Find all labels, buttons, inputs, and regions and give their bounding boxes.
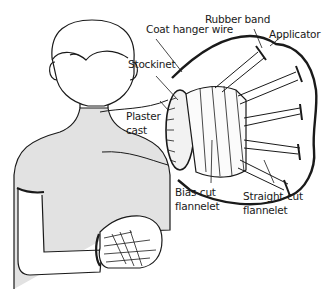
- label-plaster-cast-2: cast: [126, 124, 147, 136]
- label-applicator: Applicator: [269, 28, 320, 40]
- label-plaster-cast-1: Plaster: [126, 110, 161, 122]
- finger-1: [238, 72, 298, 104]
- thumb: [215, 52, 264, 92]
- label-bias-cut-1: Bias-cut: [175, 186, 216, 198]
- splint-diagram: [0, 0, 330, 289]
- label-rubber-band: Rubber band: [205, 13, 270, 25]
- head: [52, 20, 134, 106]
- label-straight-cut-2: flannelet: [243, 204, 288, 216]
- label-stockinet: Stockinet: [128, 58, 175, 70]
- label-bias-cut-2: flannelet: [175, 200, 220, 212]
- finger-3: [244, 140, 300, 154]
- label-straight-cut-1: Straight-cut: [243, 190, 303, 202]
- applicators: [256, 46, 302, 196]
- finger-2: [244, 108, 300, 126]
